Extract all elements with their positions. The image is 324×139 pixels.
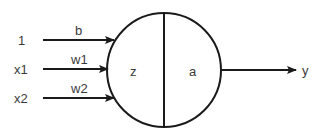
input-label-x2: x2 [14,91,28,106]
neuron-diagram: 1 x1 x2 b w1 w2 z a y [0,0,324,139]
input-label-1: 1 [18,33,25,48]
neuron-label-a: a [189,64,197,79]
input-label-x1: x1 [14,62,28,77]
weight-label-w1: w1 [70,52,88,67]
neuron-label-z: z [130,64,137,79]
weight-label-w2: w2 [70,81,88,96]
weight-label-b: b [75,23,82,38]
output-label-y: y [302,63,309,78]
